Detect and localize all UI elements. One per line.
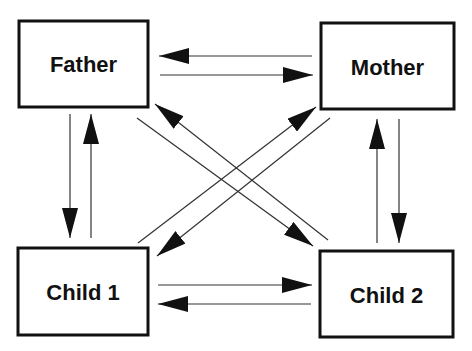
arrow-child1-to-mother — [138, 107, 316, 243]
arrow-mother-to-child1 — [157, 118, 330, 256]
node-father: Father — [19, 21, 148, 107]
family-diagram: Father Mother Child 1 Child 2 — [0, 0, 472, 351]
node-child1-label: Child 1 — [46, 280, 119, 305]
arrow-father-to-child2 — [137, 118, 313, 246]
node-father-label: Father — [50, 52, 118, 77]
node-mother: Mother — [321, 23, 454, 109]
node-mother-label: Mother — [351, 55, 425, 80]
node-child2-label: Child 2 — [350, 283, 423, 308]
node-child2: Child 2 — [320, 251, 453, 337]
arrow-child2-to-father — [155, 104, 328, 240]
node-child1: Child 1 — [18, 248, 148, 335]
